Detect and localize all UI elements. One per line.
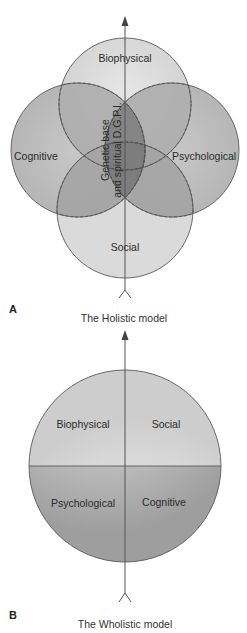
label-cognitive: Cognitive — [14, 150, 58, 162]
label-spiritual-dgpi: and spiritual D.G.P.I. — [111, 102, 123, 198]
panel-letter-b: B — [9, 609, 17, 621]
wholistic-model-diagram: Biophysical Social Psychological Cogniti… — [9, 330, 221, 630]
label-genetic-base: Genetic base — [99, 119, 111, 181]
label-biophysical-b: Biophysical — [56, 418, 109, 430]
label-psychological: Psychological — [172, 150, 236, 162]
label-psychological-b: Psychological — [51, 497, 115, 509]
caption-holistic-model: The Holistic model — [81, 312, 167, 324]
label-cognitive-b: Cognitive — [142, 496, 186, 508]
caption-wholistic-model: The Wholistic model — [78, 618, 173, 630]
panel-letter-a: A — [9, 303, 17, 315]
label-social-b: Social — [152, 418, 181, 430]
label-biophysical: Biophysical — [98, 52, 151, 64]
holistic-model-diagram: Biophysical Cognitive Psychological Soci… — [0, 0, 247, 324]
label-social: Social — [111, 241, 140, 253]
holistic-wholistic-figure: Biophysical Cognitive Psychological Soci… — [0, 0, 247, 633]
